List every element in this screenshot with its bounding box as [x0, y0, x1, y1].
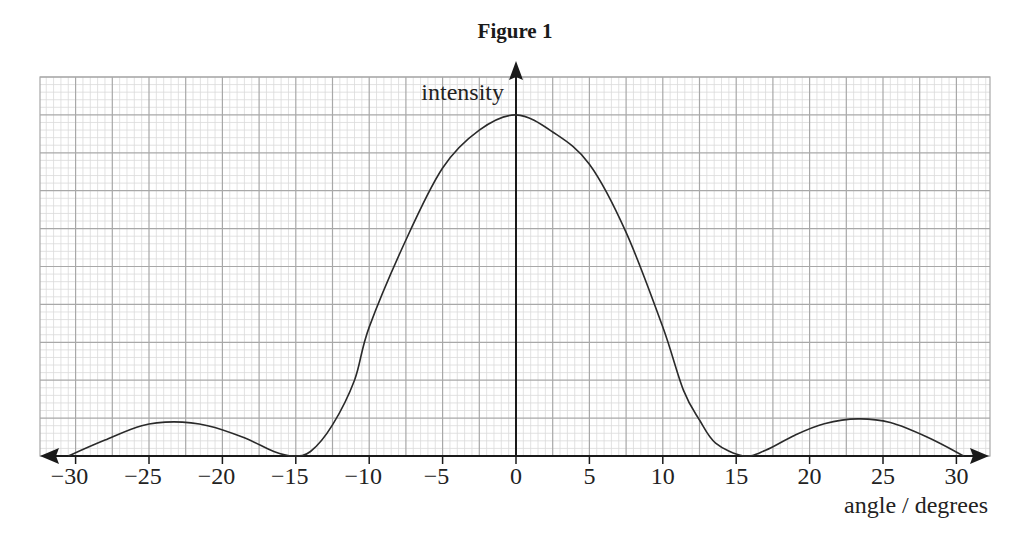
x-tick-label: −15: [271, 463, 309, 489]
chart-title: Figure 1: [478, 19, 553, 43]
x-tick-label: 15: [724, 463, 748, 489]
y-axis-label: intensity: [421, 79, 504, 105]
x-tick-label: 20: [798, 463, 822, 489]
figure-1-chart: −30−25−20−15−10−5051015202530 Figure 1 i…: [0, 0, 1018, 555]
x-tick-label: 30: [944, 463, 968, 489]
x-tick-label: −25: [124, 463, 162, 489]
x-tick-label: 0: [510, 463, 522, 489]
x-tick-label: −5: [424, 463, 450, 489]
x-axis-label: angle / degrees: [844, 492, 988, 518]
x-tick-labels: −30−25−20−15−10−5051015202530: [51, 463, 969, 489]
x-tick-label: 25: [871, 463, 895, 489]
x-tick-label: 10: [651, 463, 675, 489]
x-tick-label: 5: [583, 463, 595, 489]
x-tick-label: −10: [344, 463, 382, 489]
x-tick-label: −20: [198, 463, 236, 489]
x-tick-label: −30: [51, 463, 89, 489]
